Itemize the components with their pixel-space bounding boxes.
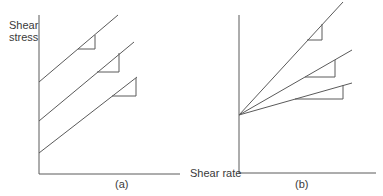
panel-a-line-2	[39, 42, 134, 121]
y-axis-label-line1: Shear	[9, 19, 38, 31]
panel-a-line-3	[39, 77, 137, 153]
panel-a	[39, 15, 180, 174]
y-axis-label: Shear stress	[9, 19, 38, 43]
panel-b-line-2	[239, 50, 352, 115]
panel-b-line-1	[239, 2, 343, 115]
panel-b	[239, 2, 376, 173]
panel-b-slope-triangle-1	[307, 24, 322, 40]
panel-a-caption: (a)	[115, 178, 128, 190]
x-axis-label: Shear rate	[190, 167, 241, 179]
panel-b-caption: (b)	[295, 178, 308, 190]
panel-a-slope-triangle-2	[97, 53, 119, 72]
y-axis-label-line2: stress	[9, 31, 38, 43]
